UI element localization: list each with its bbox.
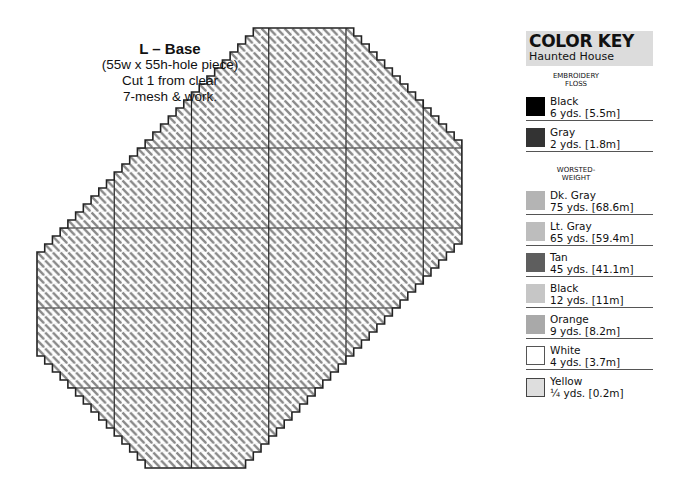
item-amount: 6 yds. [5.5m]: [550, 107, 620, 119]
key-item-floss-gray: Gray2 yds. [1.8m]: [526, 124, 653, 152]
color-swatch: [526, 128, 545, 147]
item-name: Dk. Gray: [550, 189, 634, 201]
group-label: WORSTED- WEIGHT: [526, 166, 626, 182]
color-key: COLOR KEY Haunted House EMBROIDERY FLOSS…: [526, 31, 653, 404]
group-label-line: WORSTED-: [526, 166, 626, 174]
color-key-header: COLOR KEY Haunted House: [526, 31, 653, 66]
group-worsted-weight: WORSTED- WEIGHT Dk. Gray75 yds. [68.6m] …: [526, 166, 653, 401]
item-name: Orange: [550, 313, 620, 325]
key-item-black: Black12 yds. [11m]: [526, 280, 653, 308]
piece-size: (55w x 55h-hole piece): [80, 57, 260, 73]
item-amount: 45 yds. [41.1m]: [550, 263, 634, 275]
item-name: Yellow: [550, 375, 624, 387]
color-swatch: [526, 253, 545, 272]
item-amount: 65 yds. [59.4m]: [550, 232, 634, 244]
key-item-floss-black: Black6 yds. [5.5m]: [526, 93, 653, 121]
color-swatch: [526, 378, 545, 397]
item-name: Lt. Gray: [550, 220, 634, 232]
item-name: Tan: [550, 251, 634, 263]
key-item-white: White4 yds. [3.7m]: [526, 342, 653, 370]
piece-cut-instruction: Cut 1 from clear: [80, 73, 260, 89]
item-name: Black: [550, 95, 620, 107]
color-swatch: [526, 346, 545, 365]
group-embroidery-floss: EMBROIDERY FLOSS Black6 yds. [5.5m] Gray…: [526, 72, 653, 152]
item-name: White: [550, 344, 620, 356]
color-swatch: [526, 222, 545, 241]
color-swatch: [526, 191, 545, 210]
color-swatch: [526, 284, 545, 303]
color-key-title: COLOR KEY: [529, 33, 650, 50]
key-item-dk-gray: Dk. Gray75 yds. [68.6m]: [526, 187, 653, 215]
key-item-tan: Tan45 yds. [41.1m]: [526, 249, 653, 277]
item-amount: ¼ yds. [0.2m]: [550, 387, 624, 399]
piece-title: L – Base: [80, 41, 260, 57]
color-key-subtitle: Haunted House: [529, 50, 650, 63]
color-swatch: [526, 315, 545, 334]
item-amount: 9 yds. [8.2m]: [550, 325, 620, 337]
item-amount: 2 yds. [1.8m]: [550, 138, 620, 150]
key-item-orange: Orange9 yds. [8.2m]: [526, 311, 653, 339]
key-item-lt-gray: Lt. Gray65 yds. [59.4m]: [526, 218, 653, 246]
group-label-line: FLOSS: [526, 80, 626, 88]
item-amount: 75 yds. [68.6m]: [550, 201, 634, 213]
item-amount: 4 yds. [3.7m]: [550, 356, 620, 368]
group-label-line: EMBROIDERY: [526, 72, 626, 80]
color-swatch: [526, 97, 545, 116]
group-label: EMBROIDERY FLOSS: [526, 72, 626, 88]
key-item-yellow: Yellow¼ yds. [0.2m]: [526, 373, 653, 401]
item-amount: 12 yds. [11m]: [550, 294, 624, 306]
piece-mesh-instruction: 7-mesh & work.: [80, 89, 260, 105]
group-label-line: WEIGHT: [526, 174, 626, 182]
item-name: Gray: [550, 126, 620, 138]
piece-label: L – Base (55w x 55h-hole piece) Cut 1 fr…: [80, 41, 260, 105]
item-name: Black: [550, 282, 624, 294]
